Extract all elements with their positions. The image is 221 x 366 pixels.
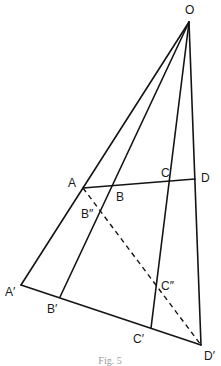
perspective-diagram: OABCDA′B′C′D′B″C″ Fig. 5 — [0, 0, 221, 366]
point-label-a1: A′ — [5, 285, 16, 299]
figure-caption: Fig. 5 — [98, 355, 121, 366]
point-label-c1: C′ — [133, 332, 145, 346]
point-label-d1: D′ — [204, 349, 216, 363]
segment-o-d1 — [189, 22, 201, 345]
segment-a-d — [83, 179, 195, 188]
point-label-a: A — [68, 176, 76, 190]
point-label-d: D — [201, 171, 210, 185]
point-label-c2: C″ — [161, 279, 175, 293]
point-label-b2: B″ — [81, 207, 94, 221]
segment-a-d1 — [83, 188, 201, 345]
point-label-b1: B′ — [47, 302, 58, 316]
point-label-o: O — [185, 3, 194, 17]
segment-o-b1 — [60, 22, 189, 297]
point-label-c: C — [161, 166, 170, 180]
point-label-b: B — [116, 190, 124, 204]
segment-o-a1 — [21, 22, 189, 285]
diagram-lines — [21, 22, 201, 345]
